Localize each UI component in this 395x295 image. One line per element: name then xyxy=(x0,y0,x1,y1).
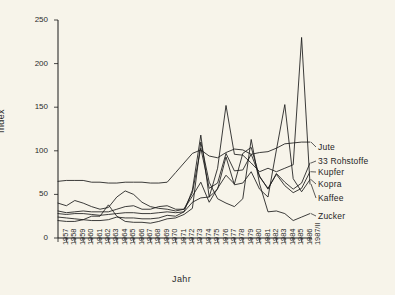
leader-line-jute xyxy=(311,142,316,147)
plot-canvas xyxy=(0,0,395,295)
x-axis-ticks xyxy=(58,238,310,242)
series-line-33-rohstoffe xyxy=(58,148,310,211)
series-line-kaffee xyxy=(58,37,310,220)
y-axis-ticks xyxy=(54,20,58,238)
leader-line-kopra xyxy=(311,180,316,184)
axes-group xyxy=(54,20,312,242)
legend-leader-lines xyxy=(311,142,316,216)
leader-line-kaffee xyxy=(311,184,316,198)
series-line-kopra xyxy=(58,105,310,216)
chart-figure: Index Jahr 050100150200250 1957195819591… xyxy=(0,0,395,295)
series-line-jute xyxy=(58,142,310,183)
leader-line-33-rohstoffe xyxy=(311,161,316,163)
series-curves-group xyxy=(58,37,310,223)
leader-line-zucker xyxy=(311,214,316,216)
series-line-kupfer xyxy=(58,147,310,212)
